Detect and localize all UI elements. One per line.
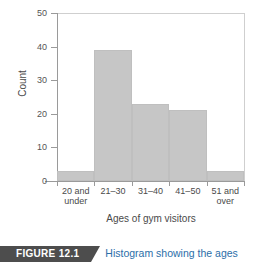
figure-number-banner: FIGURE 12.1: [0, 246, 91, 262]
y-tick-label: 40: [25, 42, 47, 52]
x-axis-title: Ages of gym visitors: [57, 213, 245, 224]
x-axis-line: [45, 181, 245, 182]
histogram-bar: [57, 171, 94, 181]
y-axis-title: Count: [17, 54, 28, 114]
histogram-bar: [132, 104, 169, 181]
histogram-bar: [169, 110, 206, 181]
figure-caption-text: Histogram showing the ages: [105, 246, 238, 260]
histogram-bars: [57, 13, 244, 181]
y-tick-label: 0: [25, 176, 47, 186]
y-tick-label: 10: [25, 142, 47, 152]
histogram-bar: [94, 50, 131, 181]
figure-caption: FIGURE 12.1 Histogram showing the ages: [0, 246, 269, 260]
y-tick-label: 20: [25, 109, 47, 119]
y-tick-label: 30: [25, 75, 47, 85]
x-category-label: 51 and over: [198, 186, 253, 206]
y-tick-label: 50: [25, 8, 47, 18]
histogram-bar: [207, 171, 244, 181]
plot-frame-right: [244, 13, 245, 182]
